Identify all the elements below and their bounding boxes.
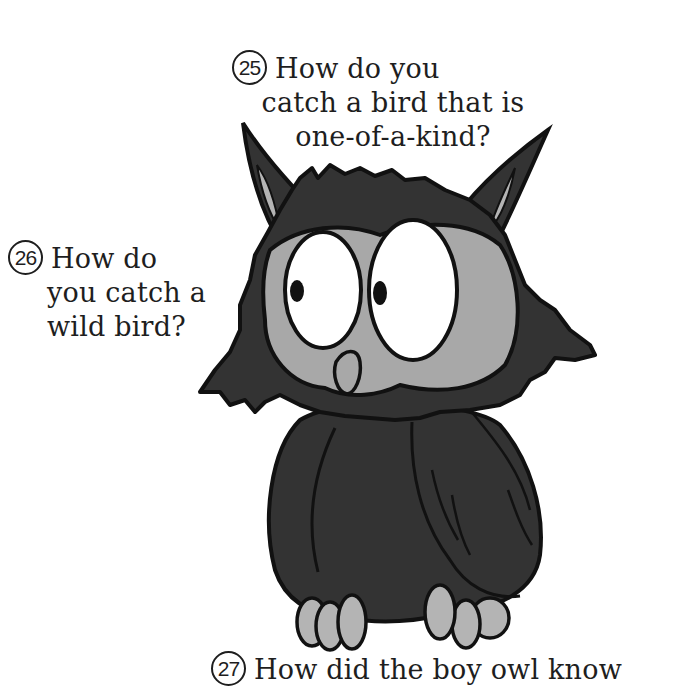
riddle-25-line-3: one-of-a-kind?: [228, 120, 558, 154]
owl-beak: [335, 352, 361, 395]
riddle-number-badge: 27: [211, 651, 246, 686]
riddle-25-line-2: catch a bird that is: [228, 86, 558, 120]
riddle-25-line-1: 25How do you: [228, 50, 558, 86]
riddle-number-badge: 25: [232, 50, 267, 85]
owl-left-eye: [285, 232, 361, 348]
riddle-26: 26How do you catch a wild bird?: [8, 240, 206, 344]
riddle-26-line-1: 26How do: [8, 240, 206, 276]
riddle-text: How did the boy owl know: [254, 654, 622, 685]
riddle-text: How do: [51, 243, 157, 274]
riddle-25: 25How do you catch a bird that is one-of…: [228, 50, 558, 154]
riddle-26-line-2: you catch a: [8, 276, 206, 310]
riddle-27-line-1: 27How did the boy owl know: [211, 651, 622, 687]
owl-left-foot: [297, 595, 366, 650]
riddle-text: How do you: [275, 53, 440, 84]
riddle-number-badge: 26: [8, 240, 43, 275]
riddle-26-line-3: wild bird?: [8, 310, 206, 344]
owl-right-eye: [369, 220, 457, 360]
owl-body: [269, 404, 541, 622]
riddle-27: 27How did the boy owl know: [211, 651, 622, 687]
